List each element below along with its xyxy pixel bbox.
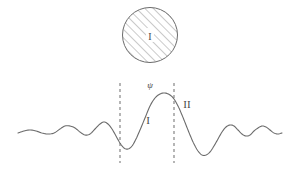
wave-packet-diagram: I ψ I II — [0, 0, 300, 173]
region-one-label: I — [146, 114, 150, 126]
wavefunction-curve — [18, 93, 282, 155]
region-two-label: II — [183, 98, 191, 110]
wave-labels-group: ψ I II — [146, 80, 191, 126]
figure-canvas: I ψ I II — [0, 0, 300, 173]
circle-label-one: I — [148, 31, 151, 42]
psi-label: ψ — [147, 80, 153, 90]
hatched-circle-group: I — [123, 8, 178, 63]
wave-curve-group — [18, 93, 282, 155]
